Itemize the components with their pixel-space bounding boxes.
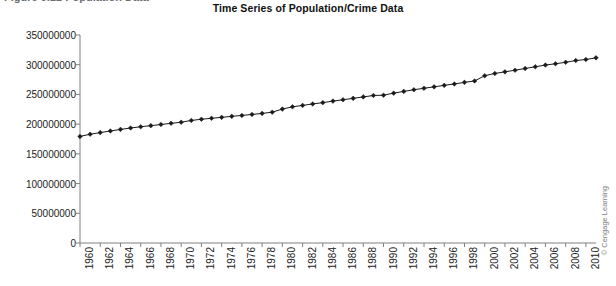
data-point-marker (98, 130, 103, 135)
data-series-line (80, 58, 596, 137)
data-point-marker (563, 60, 568, 65)
data-point-marker (452, 82, 457, 87)
data-point-marker (422, 86, 427, 91)
data-point-marker (401, 89, 406, 94)
data-point-marker (513, 68, 518, 73)
x-axis-tick-labels: 1960196219641966196819701972197419761978… (0, 247, 616, 286)
data-point-marker (432, 85, 437, 90)
x-axis-tick-label: 1974 (226, 247, 237, 269)
data-point-marker (391, 91, 396, 96)
x-axis-tick-label: 2008 (570, 247, 581, 269)
data-point-marker (310, 102, 315, 107)
data-point-marker (179, 120, 184, 125)
x-axis-tick-label: 1960 (84, 247, 95, 269)
x-axis-tick-label: 2004 (529, 247, 540, 269)
data-point-marker (462, 80, 467, 85)
x-axis-tick-label: 1978 (266, 247, 277, 269)
data-point-marker (412, 87, 417, 92)
x-axis-tick-label: 1994 (428, 247, 439, 269)
data-point-marker (321, 100, 326, 105)
x-axis-tick-label: 1964 (124, 247, 135, 269)
data-point-marker (381, 93, 386, 98)
data-point-marker (108, 129, 113, 134)
x-axis-tick-label: 1970 (185, 247, 196, 269)
x-axis-tick-label: 1998 (468, 247, 479, 269)
data-point-marker (503, 70, 508, 75)
data-point-marker (159, 122, 164, 127)
data-point-marker (472, 79, 477, 84)
data-point-marker (523, 66, 528, 71)
x-axis-tick-label: 1982 (307, 247, 318, 269)
data-point-marker (573, 58, 578, 63)
data-point-marker (209, 116, 214, 121)
data-point-marker (260, 111, 265, 116)
data-point-marker (229, 114, 234, 119)
x-axis-tick-label: 1972 (205, 247, 216, 269)
data-point-marker (594, 56, 599, 61)
x-axis-tick-label: 1996 (448, 247, 459, 269)
data-point-marker (351, 96, 356, 101)
data-point-marker (270, 110, 275, 115)
data-point-marker (543, 63, 548, 68)
data-point-marker (250, 112, 255, 117)
copyright-watermark: © Cengage Learning (600, 186, 609, 255)
data-point-marker (341, 97, 346, 102)
x-axis-tick-label: 1990 (388, 247, 399, 269)
data-point-marker (533, 64, 538, 69)
x-axis-tick-label: 1986 (347, 247, 358, 269)
data-point-marker (138, 124, 143, 129)
line-chart-svg (0, 0, 616, 286)
data-point-marker (280, 107, 285, 112)
data-point-marker (219, 115, 224, 120)
x-axis-tick-label: 2000 (489, 247, 500, 269)
data-point-marker (189, 118, 194, 123)
data-point-marker (584, 57, 589, 62)
data-point-marker (240, 113, 245, 118)
data-point-marker (78, 134, 83, 139)
x-axis-tick-label: 1984 (327, 247, 338, 269)
data-point-marker (169, 121, 174, 126)
chart-plot-area (0, 0, 616, 286)
data-point-marker (290, 105, 295, 110)
x-axis-tick-label: 2006 (549, 247, 560, 269)
x-axis-tick-label: 1976 (246, 247, 257, 269)
x-axis-tick-label: 1992 (408, 247, 419, 269)
x-axis-tick-label: 1968 (165, 247, 176, 269)
data-point-marker (300, 103, 305, 108)
data-point-marker (331, 99, 336, 104)
data-point-marker (553, 61, 558, 66)
data-point-marker (118, 127, 123, 132)
x-axis-tick-label: 1980 (286, 247, 297, 269)
data-point-marker (128, 126, 133, 131)
x-axis-tick-label: 1966 (145, 247, 156, 269)
data-point-marker (149, 123, 154, 128)
x-axis-tick-label: 2002 (509, 247, 520, 269)
data-point-marker (199, 117, 204, 122)
data-point-marker (88, 132, 93, 137)
data-point-marker (442, 83, 447, 88)
x-axis-tick-label: 1988 (367, 247, 378, 269)
x-axis-tick-label: 1962 (104, 247, 115, 269)
data-point-marker (482, 73, 487, 78)
data-point-marker (493, 71, 498, 76)
data-point-marker (361, 95, 366, 100)
data-point-marker (371, 93, 376, 98)
